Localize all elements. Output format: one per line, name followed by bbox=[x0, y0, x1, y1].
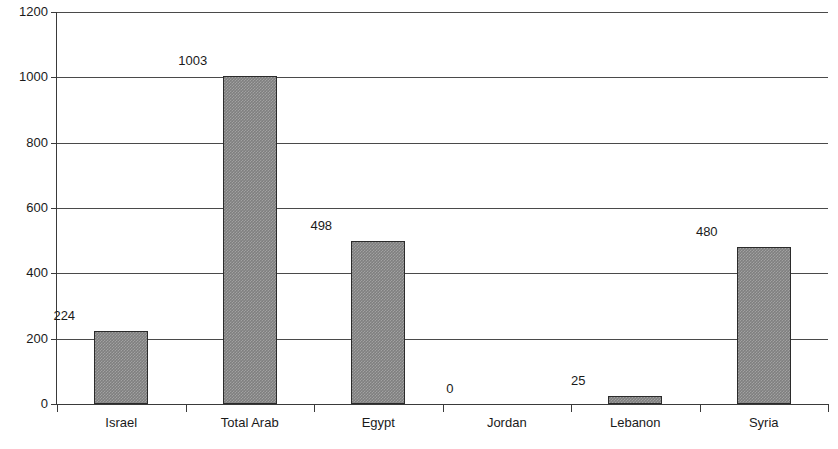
gridline-600 bbox=[57, 208, 828, 209]
y-axis-tick-label: 200 bbox=[4, 332, 48, 345]
x-axis-category-label: Egypt bbox=[362, 416, 395, 430]
bar[interactable] bbox=[94, 331, 148, 404]
y-axis-tick-label: 600 bbox=[4, 201, 48, 214]
x-tick bbox=[571, 405, 572, 412]
gridline-1200 bbox=[57, 12, 828, 13]
y-axis-tick-label: 400 bbox=[4, 266, 48, 279]
bar-chart: 020040060080010001200 224Israel1003Total… bbox=[0, 0, 838, 449]
x-tick bbox=[443, 405, 444, 412]
bar-value-label: 1003 bbox=[178, 54, 207, 67]
bar[interactable] bbox=[351, 241, 405, 404]
y-axis-tick-label: 0 bbox=[4, 397, 48, 410]
x-axis-category-label: Jordan bbox=[487, 416, 527, 430]
bar[interactable] bbox=[223, 76, 277, 404]
bar[interactable] bbox=[737, 247, 791, 404]
bar-value-label: 480 bbox=[696, 225, 718, 238]
x-tick bbox=[828, 405, 829, 412]
x-axis-category-label: Israel bbox=[105, 416, 137, 430]
y-tick-200 bbox=[51, 339, 57, 340]
x-tick bbox=[314, 405, 315, 412]
bar-value-label: 498 bbox=[310, 219, 332, 232]
y-axis-tick-label: 1200 bbox=[4, 5, 48, 18]
bar-value-label: 25 bbox=[571, 374, 585, 387]
x-tick bbox=[700, 405, 701, 412]
y-tick-400 bbox=[51, 273, 57, 274]
gridline-800 bbox=[57, 143, 828, 144]
gridline-200 bbox=[57, 339, 828, 340]
x-axis-category-label: Lebanon bbox=[610, 416, 661, 430]
y-tick-1200 bbox=[51, 12, 57, 13]
y-axis-tick-label: 1000 bbox=[4, 70, 48, 83]
x-axis-category-label: Syria bbox=[749, 416, 779, 430]
x-axis-category-label: Total Arab bbox=[221, 416, 279, 430]
x-tick bbox=[186, 405, 187, 412]
bar[interactable] bbox=[608, 396, 662, 404]
bar-value-label: 0 bbox=[446, 382, 453, 395]
x-tick-origin bbox=[57, 405, 58, 412]
bar-value-label: 224 bbox=[53, 309, 75, 322]
y-tick-800 bbox=[51, 143, 57, 144]
plot-area bbox=[57, 12, 828, 404]
y-axis-labels: 020040060080010001200 bbox=[0, 0, 48, 449]
gridline-400 bbox=[57, 273, 828, 274]
y-tick-600 bbox=[51, 208, 57, 209]
gridline-1000 bbox=[57, 77, 828, 78]
y-tick-1000 bbox=[51, 77, 57, 78]
y-axis-tick-label: 800 bbox=[4, 136, 48, 149]
